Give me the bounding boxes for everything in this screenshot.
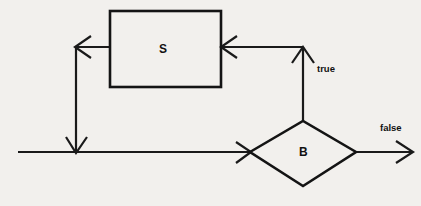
statement-label: S <box>159 43 167 55</box>
flowchart-svg <box>0 0 421 206</box>
flowchart-canvas: S B true false <box>0 0 421 206</box>
true-branch-label: true <box>317 64 335 74</box>
condition-label: B <box>299 146 308 158</box>
false-branch-label: false <box>380 123 402 133</box>
